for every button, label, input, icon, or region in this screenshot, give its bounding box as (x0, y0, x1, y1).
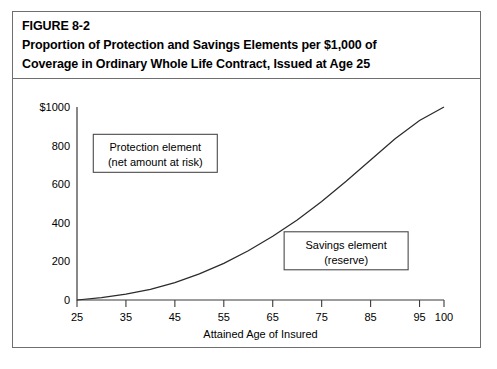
x-axis-tick-marks (77, 300, 444, 307)
x-axis-tick-labels: 2535455565758595100 (71, 311, 453, 323)
x-tick-label: 95 (413, 311, 425, 323)
x-tick-label: 45 (169, 311, 181, 323)
x-tick-label: 55 (218, 311, 230, 323)
plot-block: 0200400600800$1000 2535455565758595100 A… (13, 79, 480, 347)
y-axis-tick-labels: 0200400600800$1000 (39, 101, 70, 306)
x-tick-label: 35 (120, 311, 132, 323)
protection-element-line-2: (net amount at risk) (108, 156, 203, 168)
figure-title-line-2: Coverage in Ordinary Whole Life Contract… (22, 55, 480, 74)
x-tick-label: 25 (71, 311, 83, 323)
figure-frame: FIGURE 8-2 Proportion of Protection and … (12, 11, 481, 348)
y-tick-label: 0 (64, 294, 70, 306)
y-tick-label: $1000 (39, 101, 70, 113)
x-tick-label: 100 (435, 311, 453, 323)
x-tick-label: 85 (364, 311, 376, 323)
y-tick-label: 400 (52, 217, 70, 229)
y-tick-label: 800 (52, 140, 70, 152)
y-tick-label: 200 (52, 255, 70, 267)
x-tick-label: 65 (267, 311, 279, 323)
y-tick-label: 600 (52, 178, 70, 190)
savings-element-line-2: (reserve) (324, 254, 368, 266)
reserve-growth-chart: 0200400600800$1000 2535455565758595100 A… (13, 79, 480, 347)
x-tick-label: 75 (316, 311, 328, 323)
protection-element-line-1: Protection element (109, 141, 201, 153)
figure-title-line-1: Proportion of Protection and Savings Ele… (22, 36, 480, 55)
figure-number: FIGURE 8-2 (22, 17, 480, 36)
figure-title-block: FIGURE 8-2 Proportion of Protection and … (13, 12, 480, 79)
savings-element-line-1: Savings element (305, 239, 386, 251)
x-axis-title: Attained Age of Insured (203, 328, 317, 340)
